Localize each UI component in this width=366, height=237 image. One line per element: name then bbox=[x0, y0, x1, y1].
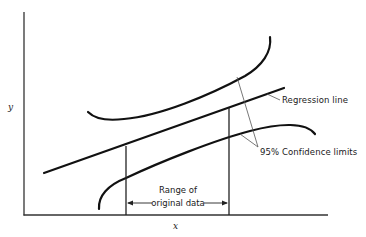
confidence-limits-label: 95% Confidence limits bbox=[260, 148, 357, 157]
upper-confidence-curve bbox=[88, 37, 270, 120]
lower-confidence-curve bbox=[99, 125, 315, 209]
range-arrow-right-head bbox=[222, 201, 228, 206]
range-label-line2: original data bbox=[138, 199, 218, 208]
y-axis-label: y bbox=[8, 103, 13, 112]
regression-confidence-diagram: y x Regression line 95% Confidence limit… bbox=[0, 0, 366, 237]
range-label-line1: Range of bbox=[138, 186, 218, 195]
range-arrow-left-head bbox=[127, 201, 133, 206]
x-axis-label: x bbox=[173, 222, 178, 231]
confidence-leader-lower bbox=[240, 134, 258, 147]
confidence-leader-upper bbox=[237, 77, 258, 147]
regression-line-label: Regression line bbox=[282, 96, 348, 105]
regression-leader bbox=[267, 94, 280, 100]
